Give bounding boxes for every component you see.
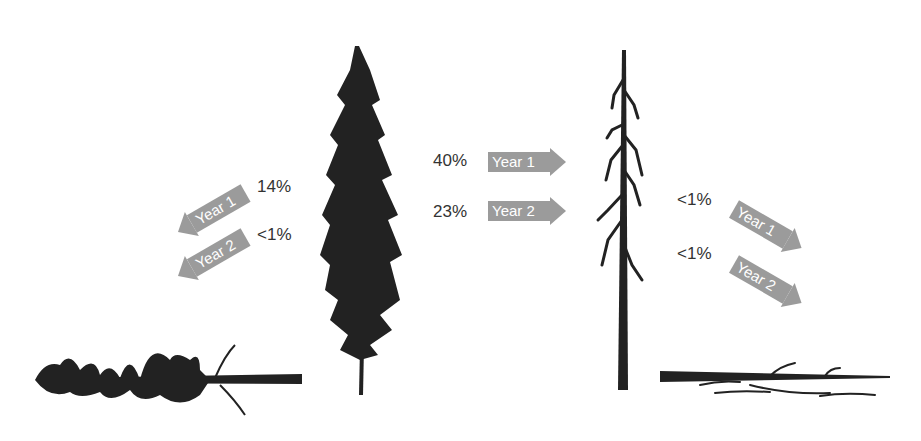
live-to-snag-year2-arrow: Year 2	[488, 197, 566, 225]
arrow-label: Year 2	[488, 201, 550, 221]
arrow-label: Year 1	[488, 152, 550, 172]
live-to-snag-year1-percent: 40%	[433, 151, 467, 171]
snag-to-down-year2-percent: <1%	[677, 244, 712, 264]
live-tree-icon	[320, 46, 402, 395]
arrow-head-icon	[550, 148, 566, 176]
arrow-head-icon	[550, 197, 566, 225]
snag-to-down-year1-percent: <1%	[677, 190, 712, 210]
snag-tree-icon	[598, 50, 642, 390]
live-to-down-year2-percent: <1%	[257, 225, 292, 245]
live-to-down-year1-percent: 14%	[257, 177, 291, 197]
live-to-snag-year2-percent: 23%	[433, 202, 467, 222]
live-to-snag-year1-arrow: Year 1	[488, 148, 566, 176]
fallen-live-tree-icon	[35, 345, 302, 415]
fallen-snag-icon	[660, 363, 890, 396]
